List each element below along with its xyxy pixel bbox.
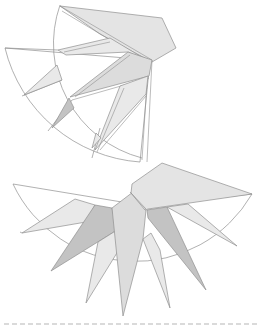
diagram-canvas xyxy=(0,0,260,329)
lower-diagram xyxy=(13,163,252,316)
upper-diagram xyxy=(5,5,176,162)
lower-rim-tick xyxy=(20,232,22,233)
diagram-stage xyxy=(0,0,260,329)
